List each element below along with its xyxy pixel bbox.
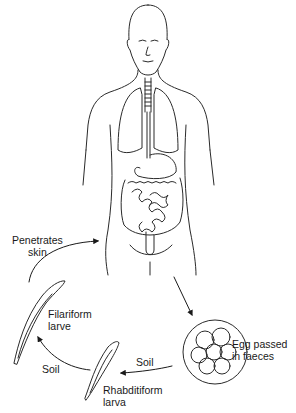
label-penetrates-line1: Penetrates	[12, 234, 63, 246]
arrow-to-egg	[174, 277, 192, 315]
label-soil-left: Soil	[42, 363, 60, 375]
label-egg: Egg passed in faeces	[232, 338, 287, 362]
label-penetrates-skin: Penetrates skin	[12, 234, 63, 258]
label-filariform-line2: larve	[48, 320, 92, 332]
label-rhabditiform: Rhabditiform larva	[103, 384, 163, 408]
human-body	[83, 5, 214, 275]
head	[127, 5, 169, 75]
label-soil-right: Soil	[136, 356, 154, 368]
label-rhabditiform-line2: larva	[103, 396, 163, 408]
label-penetrates-line2: skin	[12, 246, 63, 258]
label-rhabditiform-line1: Rhabditiform	[103, 384, 163, 396]
label-filariform: Filariform larve	[48, 308, 92, 332]
label-egg-line1: Egg passed	[232, 338, 287, 350]
label-filariform-line1: Filariform	[48, 308, 92, 320]
label-egg-line2: in faeces	[232, 350, 287, 362]
